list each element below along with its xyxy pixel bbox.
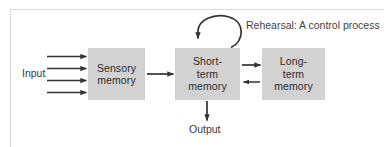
box-sensory-memory-label: Sensory memory — [97, 62, 136, 87]
box-short-term-memory-label: Short- term memory — [188, 55, 227, 93]
input-label: Input — [22, 67, 45, 80]
box-long-term-memory[interactable]: Long- term memory — [262, 48, 325, 100]
box-sensory-memory[interactable]: Sensory memory — [88, 48, 145, 100]
rehearsal-label: Rehearsal: A control process — [246, 19, 380, 32]
input-arrow-group — [47, 57, 87, 93]
box-long-term-memory-label: Long- term memory — [274, 55, 313, 93]
rehearsal-loop-arrow — [198, 16, 241, 48]
memory-model-figure: Sensory memory Short- term memory Long- … — [0, 0, 387, 147]
output-label: Output — [189, 123, 221, 136]
box-short-term-memory[interactable]: Short- term memory — [175, 48, 240, 100]
